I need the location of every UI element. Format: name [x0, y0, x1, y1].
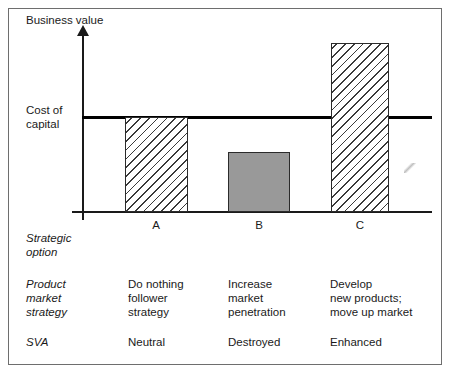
cell-pms-b-line1: Increase [228, 277, 286, 291]
cell-sva-a-text: Neutral [128, 335, 165, 349]
bar-option-b [228, 152, 290, 212]
cell-pms-a-line2: follower [128, 291, 184, 305]
cell-pms-b-line3: penetration [228, 305, 286, 319]
cell-product-market-strategy-a: Do nothing follower strategy [128, 277, 184, 319]
figure-container: Business value Cost of capital A B C Str… [0, 0, 457, 375]
cell-product-market-strategy-b: Increase market penetration [228, 277, 286, 319]
cell-pms-b-line2: market [228, 291, 286, 305]
row-label-strategic-option: Strategic option [26, 231, 71, 259]
cell-product-market-strategy-c: Develop new products; move up market [330, 277, 412, 319]
bar-option-a [125, 117, 188, 212]
row-label-sva-text: SVA [26, 335, 48, 349]
y-axis-line [82, 33, 84, 220]
scan-artifact [404, 163, 416, 173]
cell-pms-a-line1: Do nothing [128, 277, 184, 291]
row-label-strategic-option-line2: option [26, 245, 71, 259]
cost-of-capital-label-line2: capital [26, 118, 62, 132]
cell-pms-c-line2: new products; [330, 291, 412, 305]
y-axis-arrowhead-icon [77, 25, 89, 36]
column-letter-c: C [325, 219, 395, 231]
cell-pms-c-line1: Develop [330, 277, 412, 291]
cell-sva-b: Destroyed [228, 335, 280, 349]
cell-sva-c: Enhanced [330, 335, 382, 349]
cost-of-capital-label-line1: Cost of [26, 104, 62, 118]
row-label-sva: SVA [26, 335, 48, 349]
column-letter-b: B [224, 219, 294, 231]
row-label-product-market-strategy-line1: Product [26, 277, 67, 291]
row-label-product-market-strategy-line3: strategy [26, 305, 67, 319]
y-axis-label: Business value [26, 14, 103, 27]
cell-sva-c-text: Enhanced [330, 335, 382, 349]
row-label-product-market-strategy: Product market strategy [26, 277, 67, 319]
cell-pms-a-line3: strategy [128, 305, 184, 319]
cell-sva-b-text: Destroyed [228, 335, 280, 349]
cost-of-capital-label: Cost of capital [26, 104, 62, 131]
column-letter-a: A [121, 219, 191, 231]
cell-pms-c-line3: move up market [330, 305, 412, 319]
cell-sva-a: Neutral [128, 335, 165, 349]
row-label-strategic-option-line1: Strategic [26, 231, 71, 245]
bar-option-c [331, 43, 389, 212]
row-label-product-market-strategy-line2: market [26, 291, 67, 305]
